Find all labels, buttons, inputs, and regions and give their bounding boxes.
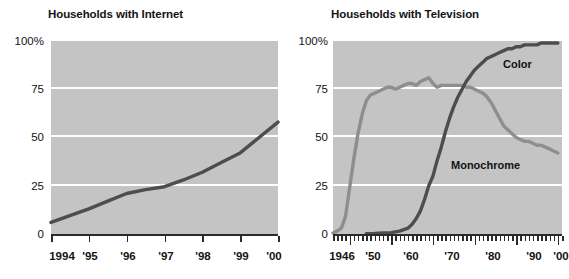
y-tick-label: 50 [315, 131, 328, 143]
series-label-monochrome: Monochrome [451, 159, 520, 171]
x-tick-minor [525, 236, 527, 241]
x-tick-major [51, 236, 53, 242]
x-tick-major [558, 236, 560, 245]
chart-panel-internet: Households with Internet 100% 75 50 25 0… [0, 0, 284, 279]
x-tick-minor [358, 236, 360, 241]
x-tick-minor [395, 236, 397, 241]
x-tick-minor [408, 236, 410, 241]
y-tick-label: 50 [31, 131, 44, 143]
x-tick-major [433, 236, 435, 245]
x-tick-major [278, 236, 280, 242]
x-tick-minor [420, 236, 422, 241]
x-tick-major [202, 236, 204, 242]
x-tick-minor [495, 236, 497, 241]
x-tick-label: '80 [485, 250, 501, 262]
x-tick-minor [366, 236, 368, 241]
x-tick-label: '50 [365, 250, 381, 262]
x-tick-minor [550, 236, 552, 241]
x-tick-minor [479, 236, 481, 241]
y-tick-label: 25 [315, 180, 328, 192]
x-tick-label: '98 [195, 250, 211, 262]
x-tick-minor [425, 236, 427, 241]
x-tick-label: 1946 [329, 250, 355, 262]
x-tick-minor [508, 236, 510, 241]
y-tick-label: 25 [31, 180, 44, 192]
x-tick-minor [537, 236, 539, 241]
x-tick-minor [512, 236, 514, 241]
y-tick-label: 75 [31, 83, 44, 95]
y-axis-labels-internet: 100% 75 50 25 0 [0, 41, 44, 234]
x-tick-major [165, 236, 167, 242]
x-tick-minor [412, 236, 414, 241]
x-tick-major [475, 236, 477, 245]
x-tick-minor [354, 236, 356, 241]
x-tick-minor [341, 236, 343, 241]
x-tick-minor [337, 236, 339, 241]
x-tick-minor [362, 236, 364, 241]
x-tick-minor [429, 236, 431, 241]
x-tick-label: '99 [233, 250, 249, 262]
x-tick-minor [487, 236, 489, 241]
page-title-internet: Households with Internet [48, 8, 183, 20]
x-tick-minor [383, 236, 385, 241]
x-tick-minor [441, 236, 443, 241]
x-tick-minor [333, 236, 335, 241]
x-tick-minor [520, 236, 522, 241]
x-tick-label: '97 [158, 250, 174, 262]
x-tick-major [127, 236, 129, 242]
x-tick-minor [529, 236, 531, 241]
x-tick-minor [554, 236, 556, 241]
x-tick-minor [387, 236, 389, 241]
x-tick-minor [454, 236, 456, 241]
plot-area-internet [51, 41, 278, 234]
x-tick-minor [379, 236, 381, 241]
y-tick-label: 100% [299, 35, 328, 47]
x-tick-minor [541, 236, 543, 241]
y-tick-label: 75 [315, 83, 328, 95]
x-tick-minor [562, 236, 564, 241]
x-tick-minor [404, 236, 406, 241]
x-tick-label: '00 [266, 250, 282, 262]
x-tick-minor [533, 236, 535, 241]
y-axis-labels-television: 100% 75 50 25 0 [284, 41, 328, 234]
x-tick-minor [500, 236, 502, 241]
x-tick-minor [504, 236, 506, 241]
series-internet-line [51, 41, 278, 234]
x-axis-labels-internet: 1994 '95 '96 '97 '98 '99 '00 [0, 250, 284, 268]
x-tick-minor [483, 236, 485, 241]
x-tick-label: '90 [526, 250, 542, 262]
y-tick-label: 0 [322, 228, 328, 240]
x-tick-minor [416, 236, 418, 241]
x-tick-minor [466, 236, 468, 241]
x-tick-minor [545, 236, 547, 241]
x-tick-major [89, 236, 91, 242]
x-tick-minor [370, 236, 372, 241]
x-tick-minor [437, 236, 439, 241]
x-tick-minor [345, 236, 347, 241]
x-tick-minor [470, 236, 472, 241]
x-tick-minor [445, 236, 447, 241]
x-axis-labels-television: 1946 '50 '60 '70 '80 '90 '00 [284, 250, 569, 268]
x-tick-minor [462, 236, 464, 241]
x-tick-minor [458, 236, 460, 241]
x-tick-label: 1994 [49, 250, 75, 262]
x-tick-label: '60 [403, 250, 419, 262]
x-tick-minor [375, 236, 377, 241]
x-tick-label: '00 [553, 250, 569, 262]
page-title-television: Households with Television [331, 8, 479, 20]
x-tick-minor [450, 236, 452, 241]
x-tick-label: '95 [82, 250, 98, 262]
chart-panel-television: Households with Television 100% 75 50 25… [284, 0, 569, 279]
x-tick-minor [400, 236, 402, 241]
x-tick-major [516, 236, 518, 245]
x-tick-label: '70 [444, 250, 460, 262]
x-tick-major [350, 236, 352, 245]
x-tick-label: '96 [120, 250, 136, 262]
series-label-color: Color [503, 58, 532, 70]
dual-chart-figure: Households with Internet 100% 75 50 25 0… [0, 0, 569, 279]
y-tick-label: 0 [38, 228, 44, 240]
x-tick-major [391, 236, 393, 245]
x-tick-major [240, 236, 242, 242]
x-tick-minor [491, 236, 493, 241]
y-tick-label: 100% [15, 35, 44, 47]
